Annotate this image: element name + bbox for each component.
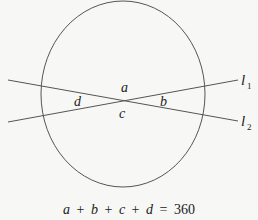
angle-label-a: a — [121, 80, 128, 95]
line-label-l2: l 2 — [241, 113, 252, 132]
svg-text:2: 2 — [247, 122, 252, 132]
equation: a + b + c + d = 360 — [63, 202, 195, 217]
geometry-diagram: a b c d l 1 l 2 a + b + c + d = 360 — [0, 0, 258, 220]
angle-label-b: b — [160, 94, 167, 109]
line-label-l1: l 1 — [241, 72, 252, 91]
angle-label-d: d — [74, 94, 82, 109]
svg-text:1: 1 — [247, 81, 252, 91]
svg-text:l: l — [241, 113, 245, 129]
angle-label-c: c — [119, 106, 126, 121]
svg-text:l: l — [241, 72, 245, 88]
